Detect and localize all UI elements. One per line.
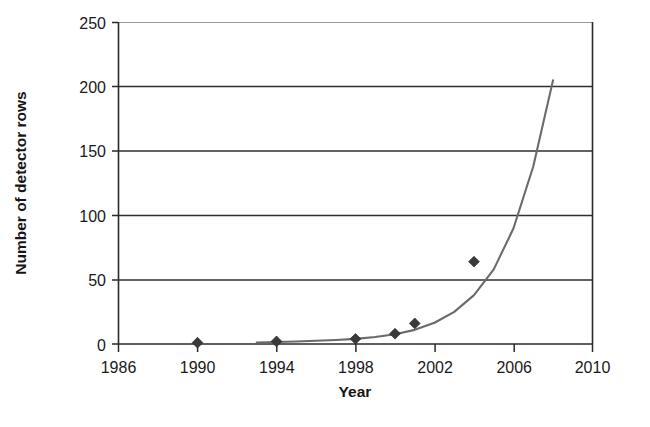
y-tick-label-50: 50 bbox=[88, 272, 106, 289]
x-tick-label-1990: 1990 bbox=[180, 359, 216, 376]
x-tick-label-1986: 1986 bbox=[101, 359, 137, 376]
x-tick-labels: 1986 1990 1994 1998 2002 2006 2010 bbox=[101, 359, 611, 376]
y-tick-labels: 250 200 150 100 50 0 bbox=[79, 15, 106, 354]
chart-figure: 250 200 150 100 50 0 1986 1990 1994 1998… bbox=[0, 0, 650, 427]
x-tick-label-2002: 2002 bbox=[417, 359, 453, 376]
plot-area-background bbox=[118, 22, 593, 344]
y-tick-label-250: 250 bbox=[79, 15, 106, 32]
x-tick-label-2010: 2010 bbox=[575, 359, 611, 376]
y-tick-marks bbox=[112, 23, 118, 345]
x-axis-title: Year bbox=[339, 383, 372, 400]
x-tick-label-1998: 1998 bbox=[338, 359, 374, 376]
y-tick-label-100: 100 bbox=[79, 208, 106, 225]
x-tick-label-2006: 2006 bbox=[496, 359, 532, 376]
y-tick-label-200: 200 bbox=[79, 79, 106, 96]
y-tick-label-150: 150 bbox=[79, 143, 106, 160]
x-tick-label-1994: 1994 bbox=[259, 359, 295, 376]
y-axis-title: Number of detector rows bbox=[12, 91, 29, 274]
y-tick-label-0: 0 bbox=[97, 337, 106, 354]
detector-rows-scatter-chart: 250 200 150 100 50 0 1986 1990 1994 1998… bbox=[0, 0, 650, 427]
x-tick-marks bbox=[119, 344, 593, 352]
